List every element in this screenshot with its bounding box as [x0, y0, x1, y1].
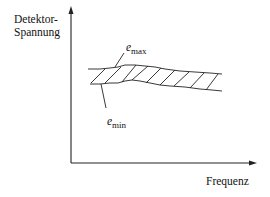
x-axis-label: Frequenz: [206, 175, 249, 188]
emax-subscript: max: [131, 46, 147, 56]
y-axis-label-line2: Spannung: [14, 26, 60, 39]
axes: [71, 12, 251, 163]
band-hatching: [91, 65, 218, 90]
emax-leader-line: [115, 53, 124, 67]
emin-leader-line: [101, 84, 106, 108]
emin-subscript: min: [112, 120, 126, 130]
x-axis-arrow-icon: [249, 161, 257, 166]
emax-curve: [88, 65, 222, 74]
y-axis-label-line1: Detektor-: [14, 13, 60, 26]
y-axis-arrow-icon: [69, 6, 74, 14]
emin-label: emin: [107, 115, 126, 129]
emin-curve: [90, 80, 222, 91]
emax-label: emax: [126, 41, 147, 55]
y-axis-label: Detektor- Spannung: [14, 13, 60, 39]
